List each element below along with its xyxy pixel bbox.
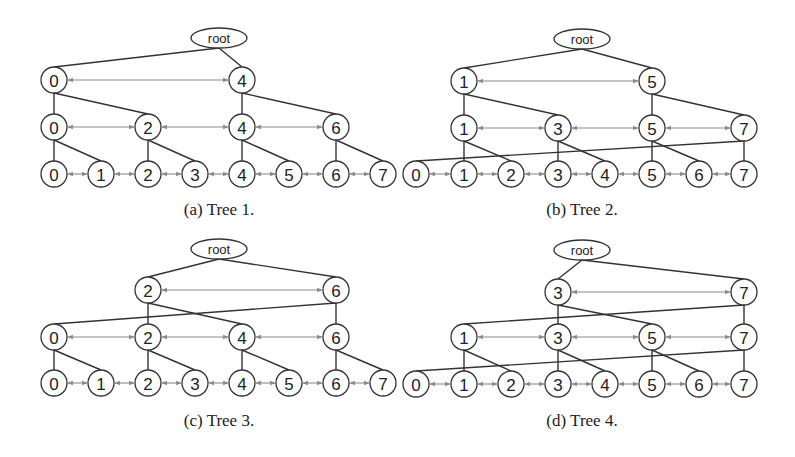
node-label: 2: [143, 119, 152, 138]
tree-node: 1: [88, 161, 114, 187]
tree-d-edges: [416, 260, 744, 371]
tree-node: 4: [592, 371, 618, 397]
tree-node: 3: [545, 279, 571, 305]
tree-node: 5: [639, 371, 665, 397]
tree-c-nodes: root26024601234567: [41, 239, 396, 396]
tree-figure: root04024601234567root15135701234567root…: [0, 0, 795, 457]
tree-node: 3: [545, 324, 571, 350]
node-label: 2: [143, 282, 152, 301]
node-label: 6: [331, 282, 340, 301]
node-label: 0: [49, 166, 58, 185]
tree-node: 4: [229, 114, 255, 140]
node-label: 1: [459, 329, 468, 348]
tree-node: 7: [370, 370, 396, 396]
tree-c-edges: [54, 259, 383, 370]
root-label: root: [208, 242, 231, 257]
tree-node: 1: [451, 68, 477, 94]
tree-a-nodes: root04024601234567: [41, 28, 396, 187]
root-label: root: [208, 31, 231, 46]
node-label: 5: [647, 120, 656, 139]
sibling-links-layer: [68, 80, 730, 384]
node-label: 2: [143, 166, 152, 185]
node-label: 7: [378, 375, 387, 394]
tree-node: 0: [41, 161, 67, 187]
tree-node: 0: [403, 371, 429, 397]
node-label: 6: [331, 166, 340, 185]
tree-node: 7: [370, 161, 396, 187]
caption-tree-1: (a) Tree 1.: [184, 200, 254, 220]
node-label: 3: [553, 166, 562, 185]
node-label: 3: [553, 284, 562, 303]
node-label: 6: [694, 166, 703, 185]
node-label: 4: [600, 166, 609, 185]
tree-node: 3: [182, 370, 208, 396]
tree-edge: [54, 93, 148, 114]
node-label: 3: [190, 166, 199, 185]
tree-node: 4: [229, 324, 255, 350]
root-node: root: [554, 240, 610, 260]
tree-b-edges: [416, 49, 744, 161]
root-node: root: [191, 28, 247, 48]
tree-node: 2: [135, 324, 161, 350]
tree-node: 0: [41, 114, 67, 140]
tree-node: 6: [323, 324, 349, 350]
tree-node: 2: [498, 371, 524, 397]
node-label: 1: [96, 166, 105, 185]
tree-node: 7: [731, 324, 757, 350]
node-label: 7: [739, 120, 748, 139]
node-label: 4: [237, 166, 246, 185]
node-label: 1: [459, 73, 468, 92]
tree-edge: [464, 94, 558, 115]
tree-node: 2: [135, 370, 161, 396]
node-label: 4: [237, 375, 246, 394]
tree-edge: [219, 48, 242, 67]
tree-edge: [242, 140, 289, 161]
tree-node: 1: [451, 161, 477, 187]
node-label: 3: [553, 376, 562, 395]
tree-node: 3: [545, 115, 571, 141]
node-label: 1: [459, 120, 468, 139]
tree-node: 2: [498, 161, 524, 187]
tree-node: 6: [323, 161, 349, 187]
node-label: 5: [647, 166, 656, 185]
tree-node: 5: [639, 161, 665, 187]
tree-node: 7: [731, 279, 757, 305]
node-label: 5: [284, 375, 293, 394]
node-label: 1: [459, 166, 468, 185]
tree-node: 0: [41, 67, 67, 93]
node-label: 7: [739, 376, 748, 395]
nodes-layer: root04024601234567root15135701234567root…: [41, 28, 757, 397]
tree-node: 5: [276, 370, 302, 396]
tree-node: 6: [323, 277, 349, 303]
node-label: 6: [694, 376, 703, 395]
node-label: 5: [647, 376, 656, 395]
node-label: 0: [49, 72, 58, 91]
node-label: 4: [237, 72, 246, 91]
tree-node: 5: [639, 68, 665, 94]
tree-node: 4: [229, 370, 255, 396]
tree-node: 7: [731, 115, 757, 141]
node-label: 3: [553, 329, 562, 348]
tree-edge: [148, 140, 195, 161]
tree-node: 3: [182, 161, 208, 187]
node-label: 0: [411, 376, 420, 395]
tree-edge: [219, 259, 336, 277]
tree-node: 6: [686, 371, 712, 397]
node-label: 4: [237, 329, 246, 348]
tree-edge: [148, 350, 195, 370]
node-label: 2: [506, 376, 515, 395]
node-label: 7: [378, 166, 387, 185]
tree-node: 7: [731, 161, 757, 187]
tree-node: 2: [135, 277, 161, 303]
tree-edge: [582, 260, 744, 279]
root-label: root: [571, 243, 594, 258]
tree-edge: [464, 305, 744, 324]
tree-node: 1: [88, 370, 114, 396]
tree-edge: [148, 259, 219, 277]
tree-node: 2: [135, 161, 161, 187]
tree-node: 6: [686, 161, 712, 187]
tree-edge: [652, 94, 744, 115]
tree-edge: [242, 350, 289, 370]
tree-node: 0: [403, 161, 429, 187]
node-label: 3: [553, 120, 562, 139]
